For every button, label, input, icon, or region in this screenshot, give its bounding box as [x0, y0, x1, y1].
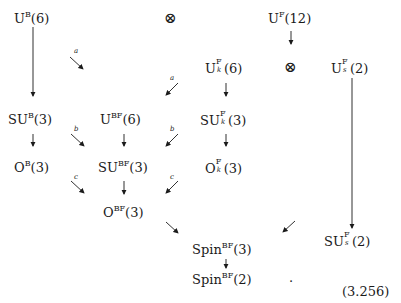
trailing-period: . [289, 270, 293, 285]
node-obf3: OBF(3) [103, 205, 144, 219]
node-ufs2: UFs(2) [331, 60, 368, 75]
arrow-label-c: c [170, 174, 174, 181]
arrow-label-b: b [74, 126, 78, 133]
arrow-c-right [166, 181, 178, 193]
arrow-a-left [70, 57, 83, 69]
equation-number: (3.256) [342, 284, 389, 299]
node-sufk3: SUFk(3) [200, 112, 246, 127]
arrow-obf3-spin3 [166, 222, 178, 233]
node-ofk3: OFk(3) [205, 160, 242, 175]
node-ubf6: UBF(6) [100, 112, 141, 126]
arrow-label-c: c [74, 174, 78, 181]
node-ob3: OB(3) [14, 160, 49, 174]
arrow-label-a: a [170, 75, 174, 82]
node-uf12: UF(12) [268, 11, 311, 25]
tensor-product-operator: ⊗ [284, 60, 297, 75]
arrow-c-left [71, 181, 84, 193]
tensor-product-operator: ⊗ [164, 11, 177, 26]
node-ub6: UB(6) [14, 11, 49, 25]
arrow-a-right [166, 83, 178, 95]
arrows-layer [0, 0, 401, 303]
node-sufs2: SUFs(2) [324, 233, 370, 248]
node-subf3: SUBF(3) [98, 160, 148, 174]
arrow-sufs2-spin3 [283, 221, 295, 232]
arrow-label-a: a [74, 48, 78, 55]
node-spinbf2: SpinBF(2) [192, 272, 252, 286]
arrow-label-b: b [170, 126, 174, 133]
node-spinbf3: SpinBF(3) [192, 242, 252, 256]
node-ufk6: UFk(6) [205, 60, 242, 75]
node-sub3: SUB(3) [8, 112, 52, 126]
arrow-b-left [71, 134, 84, 146]
arrow-b-right [166, 134, 178, 146]
